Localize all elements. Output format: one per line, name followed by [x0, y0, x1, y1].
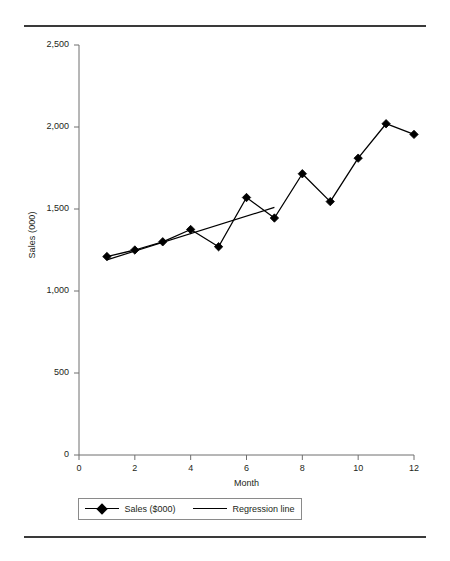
- x-tick-label: 12: [402, 463, 426, 473]
- legend-item-regression: Regression line: [193, 504, 294, 514]
- y-tick-label: 2,000: [25, 121, 69, 131]
- x-tick-label: 8: [290, 463, 314, 473]
- chart-legend: Sales ($000) Regression line: [78, 498, 302, 520]
- x-axis-title: Month: [79, 478, 414, 488]
- legend-marker-diamond-icon: [85, 504, 119, 514]
- y-axis-title: Sales (000): [27, 185, 37, 285]
- y-tick-label: 2,500: [25, 39, 69, 49]
- chart-canvas: [0, 0, 450, 561]
- series-line-regression: [107, 207, 275, 259]
- series-layer: [103, 120, 418, 261]
- legend-label-sales: Sales ($000): [124, 504, 175, 514]
- legend-label-regression: Regression line: [232, 504, 294, 514]
- x-tick-label: 6: [235, 463, 259, 473]
- y-tick-label: 500: [25, 367, 69, 377]
- legend-item-sales: Sales ($000): [85, 504, 175, 514]
- y-tick-label: 0: [25, 449, 69, 459]
- y-tick-label: 1,000: [25, 285, 69, 295]
- x-tick-label: 10: [346, 463, 370, 473]
- data-point-marker: [410, 130, 418, 138]
- y-tick-label: 1,500: [25, 203, 69, 213]
- legend-marker-line-icon: [193, 504, 227, 514]
- series-line-sales: [107, 124, 414, 257]
- x-tick-label: 2: [123, 463, 147, 473]
- x-tick-label: 4: [179, 463, 203, 473]
- plot-area: Sales (000) Month 05001,0001,5002,0002,5…: [0, 0, 450, 561]
- data-point-marker: [214, 243, 222, 251]
- x-tick-label: 0: [67, 463, 91, 473]
- figure: Sales (000) Month 05001,0001,5002,0002,5…: [0, 0, 450, 561]
